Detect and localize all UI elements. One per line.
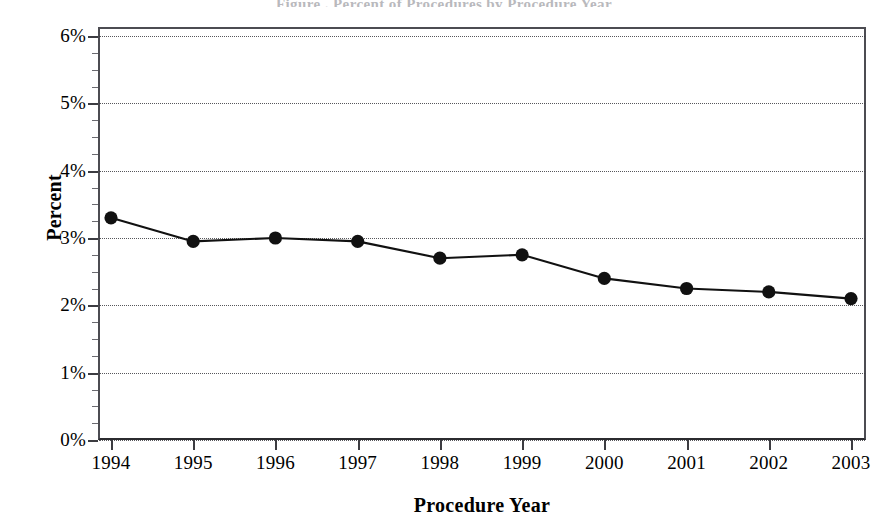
- x-tick-label-1994: 1994: [71, 452, 151, 473]
- x-tick-mark-1998: [440, 440, 442, 450]
- x-tick-mark-2000: [604, 440, 606, 450]
- y-tick-mark-major: [88, 103, 98, 105]
- x-tick-mark-1995: [193, 440, 195, 450]
- x-tick-label-2000: 2000: [564, 452, 644, 473]
- x-tick-mark-1999: [522, 440, 524, 450]
- y-tick-mark-major: [88, 440, 98, 442]
- y-tick-label-2pct: 2%: [40, 295, 86, 314]
- x-tick-label-1996: 1996: [235, 452, 315, 473]
- x-tick-label-1999: 1999: [482, 452, 562, 473]
- y-tick-mark-major: [88, 36, 98, 38]
- gridline-0pct: [99, 440, 865, 441]
- x-tick-label-1997: 1997: [318, 452, 398, 473]
- x-tick-mark-2001: [687, 440, 689, 450]
- x-tick-label-2001: 2001: [647, 452, 727, 473]
- y-tick-label-6pct: 6%: [40, 26, 86, 45]
- x-tick-label-1998: 1998: [400, 452, 480, 473]
- plot-frame: [98, 27, 866, 440]
- x-tick-mark-1997: [358, 440, 360, 450]
- y-tick-mark-major: [88, 373, 98, 375]
- gridline-5pct: [99, 103, 865, 104]
- gridline-4pct: [99, 171, 865, 172]
- gridline-6pct: [99, 36, 865, 37]
- x-axis-title: Procedure Year: [98, 494, 866, 517]
- x-tick-mark-1994: [111, 440, 113, 450]
- x-tick-mark-1996: [275, 440, 277, 450]
- gridline-1pct: [99, 373, 865, 374]
- y-tick-mark-major: [88, 305, 98, 307]
- y-tick-mark-major: [88, 171, 98, 173]
- y-tick-label-5pct: 5%: [40, 93, 86, 112]
- x-tick-label-2003: 2003: [811, 452, 888, 473]
- y-tick-label-4pct: 4%: [40, 161, 86, 180]
- y-tick-label-3pct: 3%: [40, 228, 86, 247]
- x-tick-label-1995: 1995: [153, 452, 233, 473]
- gridline-3pct: [99, 238, 865, 239]
- y-tick-label-1pct: 1%: [40, 363, 86, 382]
- y-tick-label-0pct: 0%: [40, 430, 86, 449]
- gridline-2pct: [99, 305, 865, 306]
- x-tick-mark-2002: [769, 440, 771, 450]
- x-tick-mark-2003: [851, 440, 853, 450]
- plot-area: [98, 27, 866, 440]
- x-tick-label-2002: 2002: [729, 452, 809, 473]
- chart-figure: Figure . Percent of Procedures by Proced…: [0, 0, 888, 528]
- y-tick-mark-major: [88, 238, 98, 240]
- chart-title-cropped: Figure . Percent of Procedures by Proced…: [0, 0, 888, 7]
